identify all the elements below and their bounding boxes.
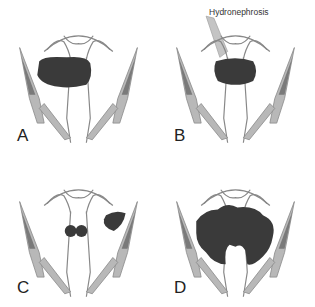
- panel-a: A: [0, 0, 157, 153]
- mass-c-right: [76, 225, 88, 237]
- panel-c: C: [0, 154, 157, 307]
- mass-b: [214, 58, 256, 84]
- panel-label-a: A: [17, 126, 28, 146]
- mass-c-left: [65, 225, 77, 237]
- panel-label-d: D: [174, 278, 186, 298]
- mass-c-lateral: [104, 212, 126, 231]
- panel-b: Hydronephrosis B: [157, 0, 314, 153]
- hydronephrosis-shape: [206, 16, 228, 57]
- panel-label-c: C: [17, 278, 29, 298]
- mass-d: [196, 205, 273, 265]
- mass-a: [37, 57, 91, 88]
- panel-d: D: [157, 154, 314, 307]
- panel-label-b: B: [174, 126, 185, 146]
- hydronephrosis-label: Hydronephrosis: [209, 7, 269, 17]
